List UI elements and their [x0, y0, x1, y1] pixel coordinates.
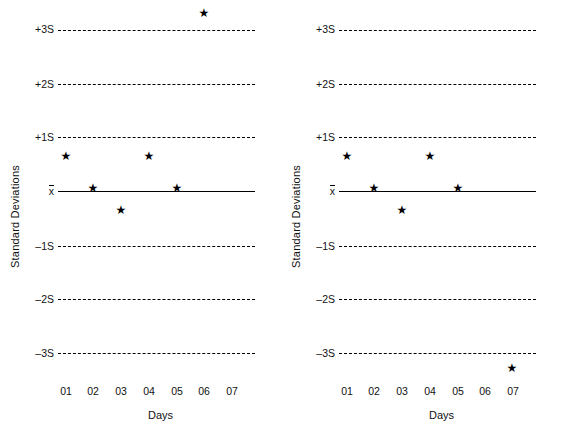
x-tick-06: 06	[473, 386, 497, 397]
x-tick-03: 03	[390, 386, 414, 397]
data-point: ★	[452, 182, 464, 194]
x-tick-07: 07	[220, 386, 244, 397]
x-tick-01: 01	[335, 386, 359, 397]
y-tick-mean: x	[295, 185, 335, 197]
data-point: ★	[143, 150, 155, 162]
gridline-plus2s	[339, 84, 536, 85]
gridline-minus1s	[339, 246, 536, 247]
data-point: ★	[396, 204, 408, 216]
x-tick-04: 04	[137, 386, 161, 397]
x-tick-02: 02	[81, 386, 105, 397]
gridline-minus2s	[58, 299, 255, 300]
data-point: ★	[341, 150, 353, 162]
x-tick-02: 02	[362, 386, 386, 397]
x-tick-05: 05	[446, 386, 470, 397]
gridline-minus1s	[58, 246, 255, 247]
data-point: ★	[424, 150, 436, 162]
data-point: ★	[171, 182, 183, 194]
data-point: ★	[87, 182, 99, 194]
x-tick-04: 04	[418, 386, 442, 397]
y-tick-minus3s: –3S	[295, 348, 335, 359]
x-axis-title: Days	[108, 409, 173, 421]
y-tick-plus2s: +2S	[14, 79, 54, 90]
data-point: ★	[368, 182, 380, 194]
gridline-plus2s	[58, 84, 255, 85]
gridline-plus3s	[339, 30, 536, 31]
y-tick-minus3s: –3S	[14, 348, 54, 359]
x-tick-01: 01	[54, 386, 78, 397]
y-tick-minus1s: –1S	[295, 241, 335, 252]
x-tick-05: 05	[165, 386, 189, 397]
data-point: ★	[115, 204, 127, 216]
data-point-outlier: ★	[198, 7, 210, 19]
y-tick-plus1s: +1S	[295, 132, 335, 143]
x-tick-07: 07	[501, 386, 525, 397]
mean-label-text: x	[49, 185, 54, 197]
x-axis-title: Days	[389, 409, 454, 421]
left-control-chart: Standard Deviations +3S +2S +1S x –1S –2…	[0, 0, 281, 433]
gridline-minus3s	[339, 353, 536, 354]
mean-label-text: x	[330, 185, 335, 197]
gridline-minus2s	[339, 299, 536, 300]
x-tick-06: 06	[192, 386, 216, 397]
y-tick-minus1s: –1S	[14, 241, 54, 252]
y-tick-plus1s: +1S	[14, 132, 54, 143]
y-tick-plus2s: +2S	[295, 79, 335, 90]
data-point: ★	[60, 150, 72, 162]
y-tick-mean: x	[14, 185, 54, 197]
y-tick-minus2s: –2S	[14, 294, 54, 305]
y-axis-title: Standard Deviations	[289, 0, 303, 433]
x-axis-title-wrap: Days	[281, 409, 562, 421]
gridline-plus1s	[339, 137, 536, 138]
gridline-plus1s	[58, 137, 255, 138]
x-tick-03: 03	[109, 386, 133, 397]
y-tick-minus2s: –2S	[295, 294, 335, 305]
data-point-outlier: ★	[506, 362, 518, 374]
x-axis-title-wrap: Days	[0, 409, 281, 421]
y-axis-title: Standard Deviations	[8, 0, 22, 433]
y-tick-plus3s: +3S	[295, 24, 335, 35]
y-tick-plus3s: +3S	[14, 24, 54, 35]
gridline-plus3s	[58, 30, 255, 31]
gridline-minus3s	[58, 353, 255, 354]
control-charts-figure: Standard Deviations +3S +2S +1S x –1S –2…	[0, 0, 562, 433]
right-control-chart: Standard Deviations +3S +2S +1S x –1S –2…	[281, 0, 562, 433]
